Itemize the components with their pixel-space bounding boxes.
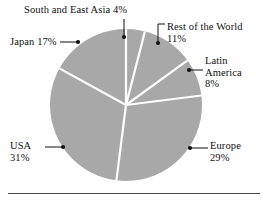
pie-chart — [49, 28, 203, 182]
label-south-and-east-asia: South and East Asia 4% — [24, 4, 127, 16]
label-europe-name: Europe — [210, 140, 241, 151]
label-latin-america-name-line1: Latin — [205, 55, 228, 66]
pie-svg — [49, 28, 203, 182]
label-japan: Japan 17% — [10, 36, 57, 48]
label-latin-america: Latin America 8% — [205, 55, 267, 90]
label-rest-of-the-world: Rest of the World 11% — [167, 21, 263, 44]
bottom-rule — [8, 193, 260, 194]
label-usa: USA 31% — [10, 140, 56, 163]
label-usa-value: 31% — [10, 152, 30, 163]
label-latin-america-name-line2: America — [205, 67, 242, 78]
label-south-and-east-asia-text: South and East Asia 4% — [24, 4, 127, 15]
label-europe-value: 29% — [210, 152, 230, 163]
label-europe: Europe 29% — [210, 140, 268, 163]
label-japan-text: Japan 17% — [10, 36, 57, 47]
label-rest-of-the-world-name: Rest of the World — [167, 21, 243, 32]
label-rest-of-the-world-value: 11% — [167, 33, 186, 44]
label-latin-america-value: 8% — [205, 78, 219, 89]
label-usa-name: USA — [10, 140, 31, 151]
figure-pie-chart: South and East Asia 4% Rest of the World… — [0, 0, 270, 202]
